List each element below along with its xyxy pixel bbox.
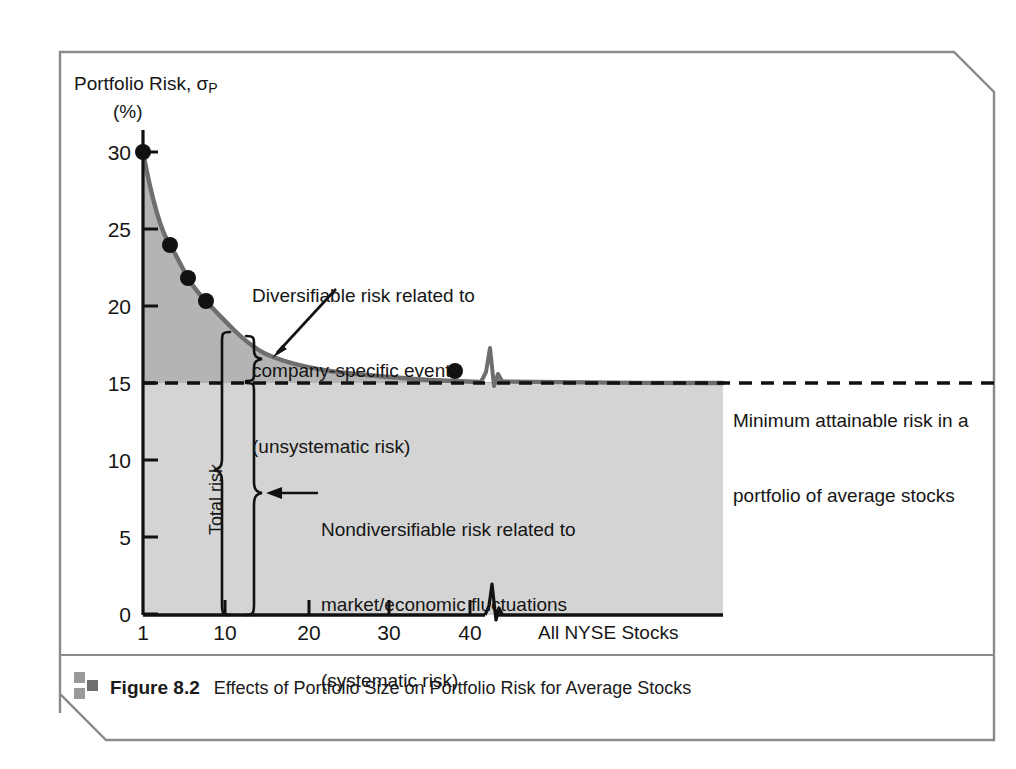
figure-squares-icon	[74, 672, 100, 704]
y-axis-title: Portfolio Risk, σP	[74, 72, 218, 97]
figure-page: Portfolio Risk, σP (%) 0 5 10 15 20 25 3…	[0, 0, 1016, 769]
nondiversifiable-risk-annotation-line-2: market/economic fluctuations	[321, 592, 576, 617]
x-tick-label-1: 1	[123, 620, 163, 646]
minimum-attainable-risk-annotation-line-2: portfolio of average stocks	[733, 483, 968, 508]
diversifiable-risk-annotation-line-3: (unsystematic risk)	[252, 434, 475, 459]
y-tick-label-30: 30	[75, 140, 131, 166]
diversifiable-risk-annotation-line-1: Diversifiable risk related to	[252, 283, 475, 308]
y-axis-title-subscript: P	[208, 80, 217, 96]
nondiversifiable-risk-annotation-line-1: Nondiversifiable risk related to	[321, 517, 576, 542]
y-tick-label-5: 5	[75, 525, 131, 551]
x-tick-label-10: 10	[205, 620, 245, 646]
total-risk-label: Total risk	[206, 464, 227, 535]
y-axis-unit-label: (%)	[113, 100, 143, 123]
data-point-marker	[180, 270, 196, 286]
y-tick-label-25: 25	[75, 217, 131, 243]
y-tick-label-10: 10	[75, 448, 131, 474]
minimum-attainable-risk-annotation: Minimum attainable risk in a portfolio o…	[733, 357, 968, 559]
figure-title: Effects of Portfolio Size on Portfolio R…	[214, 678, 692, 699]
diversifiable-risk-annotation-line-2: company-specific events	[252, 358, 475, 383]
y-tick-label-15: 15	[75, 371, 131, 397]
data-point-marker	[162, 237, 178, 253]
figure-caption: Figure 8.2 Effects of Portfolio Size on …	[74, 668, 954, 708]
y-tick-label-20: 20	[75, 294, 131, 320]
figure-number: Figure 8.2	[110, 677, 200, 699]
minimum-attainable-risk-annotation-line-1: Minimum attainable risk in a	[733, 408, 968, 433]
data-point-marker	[198, 293, 214, 309]
y-axis-title-main: Portfolio Risk, σ	[74, 73, 208, 94]
